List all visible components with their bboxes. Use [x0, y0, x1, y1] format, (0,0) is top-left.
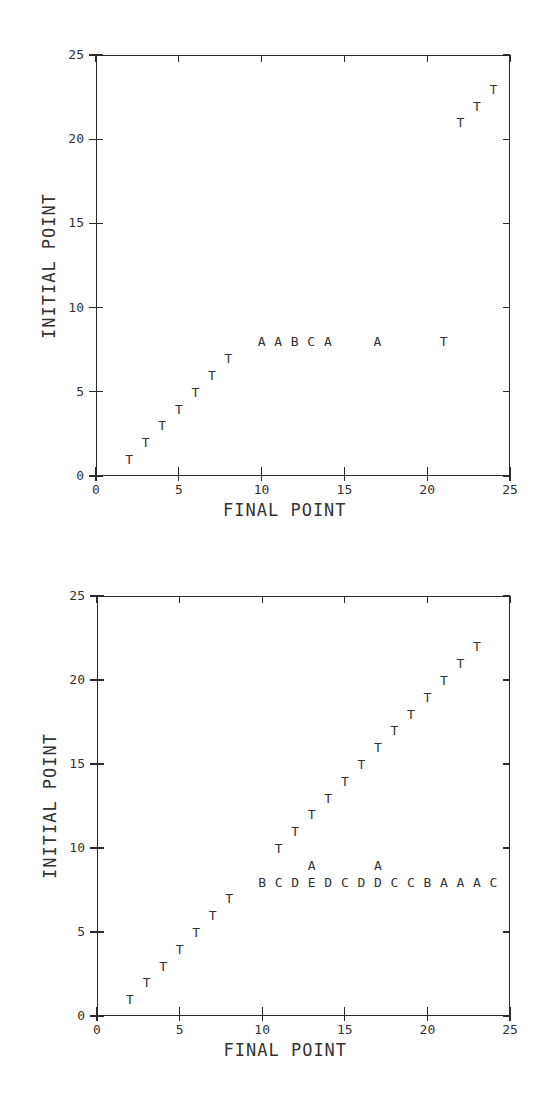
x-tick-top	[344, 596, 345, 603]
data-point-d: D	[371, 875, 385, 888]
x-tick-top	[96, 596, 97, 603]
data-point-t: T	[272, 842, 286, 855]
data-point-t: T	[453, 657, 467, 670]
y-tick-label: 20	[61, 673, 85, 686]
x-tick-label: 0	[82, 1023, 112, 1036]
data-point-t: T	[305, 808, 319, 821]
y-tick	[90, 1015, 104, 1016]
data-point-c: C	[486, 875, 500, 888]
data-point-c: C	[338, 875, 352, 888]
x-axis-title: FINAL POINT	[224, 1040, 348, 1060]
data-point-t: T	[387, 724, 401, 737]
data-point-t: T	[354, 758, 368, 771]
data-point-t: T	[470, 640, 484, 653]
data-point-a: A	[453, 875, 467, 888]
x-tick	[262, 1007, 263, 1021]
plot-frame	[97, 596, 510, 1016]
x-tick	[179, 1007, 180, 1021]
data-point-a: A	[305, 858, 319, 871]
x-tick-label: 10	[247, 1023, 277, 1036]
y-tick-label: 10	[61, 841, 85, 854]
data-point-c: C	[404, 875, 418, 888]
y-tick	[90, 595, 104, 596]
x-tick-label: 25	[495, 1023, 525, 1036]
x-tick-label: 20	[412, 1023, 442, 1036]
data-point-c: C	[272, 875, 286, 888]
y-tick-right	[503, 679, 510, 680]
x-tick-top	[179, 596, 180, 603]
data-point-t: T	[321, 791, 335, 804]
y-tick-label: 15	[61, 757, 85, 770]
x-tick-top	[262, 596, 263, 603]
data-point-c: C	[387, 875, 401, 888]
data-point-t: T	[156, 959, 170, 972]
y-tick	[90, 763, 104, 764]
chart-bottom: 05101520250510152025FINAL POINTINITIAL P…	[0, 0, 546, 1118]
data-point-t: T	[338, 774, 352, 787]
y-tick	[90, 679, 104, 680]
y-tick-label: 0	[61, 1009, 85, 1022]
data-point-e: E	[305, 875, 319, 888]
y-tick-right	[503, 847, 510, 848]
data-point-b: B	[420, 875, 434, 888]
data-point-t: T	[404, 707, 418, 720]
x-tick	[344, 1007, 345, 1021]
x-tick-label: 5	[165, 1023, 195, 1036]
data-point-a: A	[371, 858, 385, 871]
y-tick-right	[503, 931, 510, 932]
data-point-t: T	[222, 892, 236, 905]
data-point-b: B	[255, 875, 269, 888]
y-tick	[90, 847, 104, 848]
x-tick-top	[509, 596, 510, 603]
data-point-t: T	[140, 976, 154, 989]
x-tick	[427, 1007, 428, 1021]
x-tick-label: 15	[330, 1023, 360, 1036]
data-point-t: T	[371, 741, 385, 754]
data-point-t: T	[206, 909, 220, 922]
y-tick	[90, 931, 104, 932]
x-tick	[96, 1007, 97, 1021]
y-tick-right	[503, 1015, 510, 1016]
data-point-t: T	[437, 674, 451, 687]
data-point-t: T	[123, 993, 137, 1006]
data-point-d: D	[354, 875, 368, 888]
x-tick	[509, 1007, 510, 1021]
data-point-d: D	[288, 875, 302, 888]
data-point-t: T	[173, 942, 187, 955]
data-point-t: T	[189, 926, 203, 939]
data-point-a: A	[470, 875, 484, 888]
data-point-a: A	[437, 875, 451, 888]
y-tick-label: 5	[61, 925, 85, 938]
y-tick-right	[503, 763, 510, 764]
y-axis-title: INITIAL POINT	[40, 721, 60, 891]
y-tick-label: 25	[61, 589, 85, 602]
x-tick-top	[427, 596, 428, 603]
data-point-t: T	[288, 825, 302, 838]
y-tick-right	[503, 595, 510, 596]
data-point-t: T	[420, 690, 434, 703]
data-point-d: D	[321, 875, 335, 888]
